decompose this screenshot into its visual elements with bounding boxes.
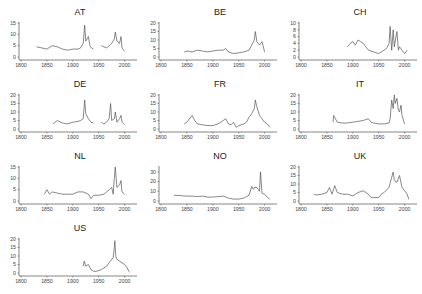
y-tick-label: 0 (13, 54, 16, 60)
y-tick-label: 5 (13, 261, 16, 267)
series-line (101, 104, 124, 125)
y-tick-label: 10 (10, 175, 16, 181)
x-tick-label: 1850 (41, 206, 53, 212)
series-line (37, 25, 94, 50)
x-tick-label: 1950 (93, 206, 105, 212)
y-tick-label: 15 (150, 28, 156, 34)
line-plot: 180018501900195020000102030 (140, 144, 280, 216)
line-plot: 1800185019001950200005101520 (280, 144, 420, 216)
y-tick-label: 0 (293, 198, 296, 204)
panel-no: NO180018501900195020000102030 (140, 144, 280, 216)
series-line (184, 32, 264, 54)
y-tick-label: 20 (150, 20, 156, 26)
y-tick-label: 10 (150, 37, 156, 43)
x-tick-label: 1950 (373, 206, 385, 212)
x-tick-label: 1900 (207, 62, 219, 68)
y-tick-label: 5 (13, 117, 16, 123)
y-tick-label: 10 (10, 253, 16, 259)
panel-it: IT1800185019001950200005101520 (280, 72, 420, 144)
y-tick-label: 30 (150, 169, 156, 175)
line-plot: 18001850190019502000051015 (0, 0, 140, 72)
panel-fr: FR1800185019001950200005101520 (140, 72, 280, 144)
x-tick-label: 1800 (15, 62, 27, 68)
y-tick-label: 20 (150, 92, 156, 98)
y-tick-label: 10 (150, 109, 156, 115)
panel-us: US1800185019001950200005101520 (0, 216, 140, 288)
y-tick-label: 0 (13, 270, 16, 276)
panel-ch: CH180018501900195020000246810 (280, 0, 420, 72)
y-tick-label: 2 (293, 47, 296, 53)
x-tick-label: 1850 (41, 62, 53, 68)
y-tick-label: 20 (10, 92, 16, 98)
y-tick-label: 10 (290, 20, 296, 26)
y-tick-label: 0 (13, 126, 16, 132)
y-tick-label: 20 (10, 236, 16, 242)
y-tick-label: 0 (153, 126, 156, 132)
y-tick-label: 5 (153, 117, 156, 123)
y-tick-label: 20 (290, 164, 296, 170)
panel-de: DE1800185019001950200005101520 (0, 72, 140, 144)
y-tick-label: 0 (13, 198, 16, 204)
x-tick-label: 1950 (373, 134, 385, 140)
x-tick-label: 1900 (347, 206, 359, 212)
x-tick-label: 1850 (321, 62, 333, 68)
x-tick-label: 1800 (295, 62, 307, 68)
y-tick-label: 15 (10, 20, 16, 26)
x-tick-label: 1800 (155, 62, 167, 68)
series-line (83, 241, 130, 272)
x-tick-label: 2000 (259, 62, 271, 68)
x-tick-label: 1800 (155, 206, 167, 212)
x-tick-label: 2000 (119, 278, 131, 284)
x-tick-label: 1850 (41, 134, 53, 140)
series-line (101, 32, 124, 51)
x-tick-label: 2000 (259, 206, 271, 212)
y-tick-label: 0 (293, 54, 296, 60)
y-tick-label: 15 (10, 244, 16, 250)
line-plot: 1800185019001950200005101520 (140, 72, 280, 144)
y-tick-label: 5 (13, 186, 16, 192)
x-tick-label: 2000 (119, 62, 131, 68)
y-tick-label: 6 (293, 33, 296, 39)
x-tick-label: 1950 (93, 134, 105, 140)
y-tick-label: 15 (10, 164, 16, 170)
x-tick-label: 2000 (119, 134, 131, 140)
panel-nl: NL18001850190019502000051015 (0, 144, 140, 216)
panel-uk: UK1800185019001950200005101520 (280, 144, 420, 216)
y-tick-label: 15 (290, 172, 296, 178)
x-tick-label: 1950 (93, 62, 105, 68)
line-plot: 1800185019001950200005101520 (0, 216, 140, 288)
y-tick-label: 4 (293, 40, 296, 46)
line-plot: 180018501900195020000246810 (280, 0, 420, 72)
y-tick-label: 0 (153, 54, 156, 60)
x-tick-label: 1800 (15, 206, 27, 212)
x-tick-label: 1950 (373, 62, 385, 68)
y-tick-label: 5 (153, 45, 156, 51)
y-tick-label: 10 (10, 31, 16, 37)
x-tick-label: 1800 (15, 134, 27, 140)
line-plot: 1800185019001950200005101520 (140, 0, 280, 72)
y-tick-label: 15 (290, 100, 296, 106)
x-tick-label: 1800 (295, 206, 307, 212)
series-line (314, 172, 409, 199)
x-tick-label: 1950 (233, 62, 245, 68)
y-tick-label: 5 (293, 117, 296, 123)
series-line (184, 100, 269, 127)
line-plot: 1800185019001950200005101520 (280, 72, 420, 144)
x-tick-label: 1900 (347, 62, 359, 68)
x-tick-label: 1900 (67, 206, 79, 212)
x-tick-label: 1800 (15, 278, 27, 284)
x-tick-label: 1900 (67, 134, 79, 140)
x-tick-label: 1850 (321, 206, 333, 212)
line-plot: 1800185019001950200005101520 (0, 72, 140, 144)
x-tick-label: 1850 (41, 278, 53, 284)
y-tick-label: 5 (13, 42, 16, 48)
series-line (53, 100, 93, 124)
series-line (333, 95, 405, 124)
y-tick-label: 10 (290, 109, 296, 115)
x-tick-label: 2000 (399, 206, 411, 212)
x-tick-label: 1900 (207, 134, 219, 140)
y-tick-label: 20 (150, 178, 156, 184)
y-tick-label: 10 (150, 188, 156, 194)
series-line (174, 172, 270, 199)
x-tick-label: 1950 (93, 278, 105, 284)
